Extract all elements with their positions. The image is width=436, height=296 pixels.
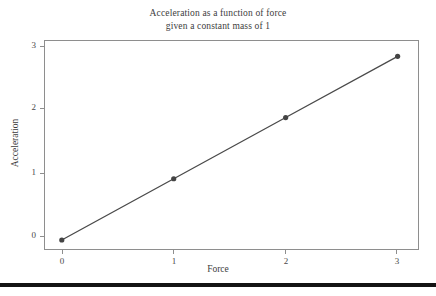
series-line [62, 56, 398, 240]
y-tick-label-0: 0 [18, 230, 36, 240]
data-point [59, 237, 64, 242]
chart-title-line-1: Acceleration as a function of force [0, 7, 436, 20]
line-series-svg [45, 41, 420, 251]
plot-area [44, 40, 419, 250]
data-point [395, 54, 400, 59]
chart-title-line-2: given a constant mass of 1 [0, 20, 436, 33]
y-tick-label-2: 2 [18, 102, 36, 112]
y-tick-label-3: 3 [18, 40, 36, 50]
x-axis-label: Force [0, 264, 436, 274]
y-axis-label: Acceleration [10, 98, 20, 188]
data-point [171, 176, 176, 181]
chart-title: Acceleration as a function of force give… [0, 7, 436, 33]
chart-figure: Acceleration as a function of force give… [0, 0, 436, 296]
bottom-divider-rule [0, 283, 436, 287]
y-tick-label-1: 1 [18, 167, 36, 177]
data-point [283, 115, 288, 120]
